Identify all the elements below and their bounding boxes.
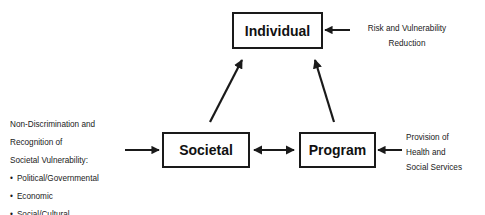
- list-item: Social/Cultural: [10, 206, 130, 215]
- note-line: Recognition of: [10, 134, 130, 152]
- note-risk-reduction: Risk and Vulnerability Reduction: [352, 21, 462, 51]
- arrow-program-to-individual: [315, 60, 334, 122]
- vulnerability-list: Political/Governmental Economic Social/C…: [10, 170, 130, 215]
- note-line: Risk and Vulnerability: [352, 21, 462, 36]
- list-item: Economic: [10, 188, 130, 206]
- note-line: Reduction: [352, 36, 462, 51]
- note-provision-services: Provision of Health and Social Services: [406, 130, 485, 175]
- note-non-discrimination: Non-Discrimination and Recognition of So…: [10, 116, 130, 215]
- note-line: Societal Vulnerability:: [10, 152, 130, 170]
- note-line: Health and: [406, 145, 485, 160]
- arrow-societal-to-individual: [210, 60, 242, 122]
- list-item: Political/Governmental: [10, 170, 130, 188]
- node-individual: Individual: [232, 12, 323, 49]
- note-line: Provision of: [406, 130, 485, 145]
- node-societal: Societal: [162, 132, 250, 168]
- note-line: Social Services: [406, 160, 485, 175]
- node-program-label: Program: [309, 142, 367, 158]
- node-individual-label: Individual: [245, 23, 310, 39]
- node-program: Program: [299, 132, 376, 168]
- node-societal-label: Societal: [179, 142, 233, 158]
- note-line: Non-Discrimination and: [10, 116, 130, 134]
